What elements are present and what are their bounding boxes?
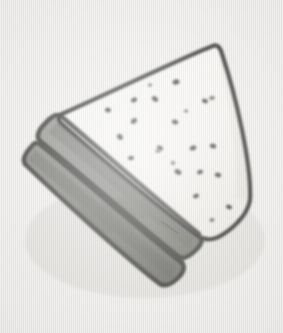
bread-seed	[148, 83, 152, 86]
bread-seed	[155, 149, 160, 153]
bread-seed	[184, 109, 188, 112]
sandwich-illustration	[0, 0, 283, 333]
bread-seed	[171, 161, 176, 165]
sketch-canvas	[0, 0, 283, 333]
